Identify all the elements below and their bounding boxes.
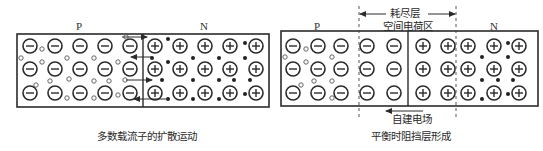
donor-ion-icon xyxy=(512,86,526,100)
hole-icon xyxy=(40,47,44,51)
electron-icon xyxy=(506,41,510,45)
donor-ion-icon xyxy=(461,86,475,100)
hole-icon xyxy=(65,96,69,100)
electron-icon xyxy=(243,41,247,45)
electron-icon xyxy=(480,78,484,82)
acceptor-ion-icon xyxy=(286,86,300,100)
electron-icon xyxy=(232,78,236,82)
electron-icon xyxy=(217,78,221,82)
depletion-layer-label: 耗尽层 xyxy=(390,8,420,19)
hole-icon xyxy=(92,96,96,100)
hole-icon xyxy=(67,77,71,81)
electron-icon xyxy=(480,55,484,59)
electron-icon xyxy=(243,92,247,96)
built-in-field-label: 自建电场 xyxy=(392,114,432,125)
acceptor-ion-icon xyxy=(286,62,300,76)
electron-icon xyxy=(217,56,221,60)
acceptor-ion-icon xyxy=(73,62,87,76)
acceptor-ion-icon xyxy=(98,62,112,76)
donor-ion-icon xyxy=(173,62,187,76)
donor-ion-icon xyxy=(512,39,526,53)
electron-icon xyxy=(191,56,195,60)
acceptor-ion-icon xyxy=(311,62,325,76)
acceptor-ion-icon xyxy=(387,39,401,53)
hole-icon xyxy=(107,79,111,83)
acceptor-ion-icon xyxy=(360,39,374,53)
hole-icon xyxy=(116,60,120,64)
electron-icon xyxy=(191,78,195,82)
hole-icon xyxy=(65,56,69,60)
donor-ion-icon xyxy=(198,39,212,53)
donor-ion-icon xyxy=(441,62,455,76)
hole-icon xyxy=(330,55,334,59)
donor-ion-icon xyxy=(148,86,162,100)
acceptor-ion-icon xyxy=(334,86,348,100)
electron-icon xyxy=(217,97,221,101)
donor-ion-icon xyxy=(223,86,237,100)
donor-ion-icon xyxy=(198,86,212,100)
electron-icon xyxy=(496,78,500,82)
donor-ion-icon xyxy=(487,39,501,53)
acceptor-ion-icon xyxy=(73,39,87,53)
donor-ion-icon xyxy=(148,62,162,76)
hole-icon xyxy=(304,60,308,64)
hole-icon xyxy=(19,56,23,60)
right-n-region-label: N xyxy=(490,21,498,32)
donor-ion-icon xyxy=(249,39,263,53)
acceptor-ion-icon xyxy=(311,39,325,53)
hole-icon xyxy=(116,93,120,97)
acceptor-ion-icon xyxy=(23,39,37,53)
acceptor-ion-icon xyxy=(334,62,348,76)
donor-ion-icon xyxy=(487,62,501,76)
left-n-region-label: N xyxy=(200,21,208,32)
left-caption: 多数载流子的扩散运动 xyxy=(97,131,197,142)
donor-ion-icon xyxy=(461,39,475,53)
acceptor-ion-icon xyxy=(98,39,112,53)
donor-ion-icon xyxy=(223,62,237,76)
space-charge-region-label: 空间电荷区 xyxy=(383,21,433,32)
hole-icon xyxy=(304,47,308,51)
right-caption: 平衡时阻挡层形成 xyxy=(371,131,451,142)
hole-icon xyxy=(48,79,52,83)
electron-icon xyxy=(506,55,510,59)
electron-icon xyxy=(248,78,252,82)
hole-icon xyxy=(330,96,334,100)
electron-icon xyxy=(243,56,247,60)
donor-ion-icon xyxy=(223,39,237,53)
hole-icon xyxy=(330,79,334,83)
electron-icon xyxy=(166,97,170,101)
hole-icon xyxy=(34,83,38,87)
acceptor-ion-icon xyxy=(98,86,112,100)
donor-ion-icon xyxy=(461,62,475,76)
acceptor-ion-icon xyxy=(334,39,348,53)
electron-icon xyxy=(480,97,484,101)
acceptor-ion-icon xyxy=(48,39,62,53)
acceptor-ion-icon xyxy=(48,86,62,100)
electron-icon xyxy=(511,78,515,82)
acceptor-ion-icon xyxy=(360,62,374,76)
donor-ion-icon xyxy=(148,39,162,53)
acceptor-ion-icon xyxy=(387,62,401,76)
acceptor-ion-icon xyxy=(23,62,37,76)
hole-icon xyxy=(92,56,96,60)
left-p-region-label: P xyxy=(76,21,82,32)
acceptor-ion-icon xyxy=(360,86,374,100)
hole-icon xyxy=(299,83,303,87)
electron-icon xyxy=(506,92,510,96)
donor-ion-icon xyxy=(512,62,526,76)
right-p-region-label: P xyxy=(314,21,320,32)
donor-ion-icon xyxy=(487,86,501,100)
acceptor-ion-icon xyxy=(123,86,137,100)
donor-ion-icon xyxy=(249,86,263,100)
acceptor-ion-icon xyxy=(311,86,325,100)
acceptor-ion-icon xyxy=(123,62,137,76)
hole-icon xyxy=(92,79,96,83)
donor-ion-icon xyxy=(249,62,263,76)
acceptor-ion-icon xyxy=(23,86,37,100)
donor-ion-icon xyxy=(173,86,187,100)
electron-icon xyxy=(160,78,164,82)
acceptor-ion-icon xyxy=(48,62,62,76)
donor-ion-icon xyxy=(416,86,430,100)
acceptor-ion-icon xyxy=(387,86,401,100)
donor-ion-icon xyxy=(416,39,430,53)
